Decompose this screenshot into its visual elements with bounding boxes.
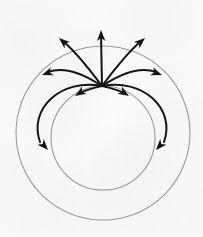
field-line-figure: [0, 0, 203, 237]
field-lines-group: [38, 30, 167, 153]
fieldline-left-medium-arrowhead: [41, 67, 54, 79]
fieldline-right-medium: [102, 67, 163, 86]
fieldline-right-long: [102, 35, 148, 86]
fieldline-left-long: [56, 35, 102, 86]
fieldline-left-medium: [41, 67, 102, 86]
fieldline-left-outer-loop: [38, 85, 102, 153]
inner-boundary-circle: [51, 86, 155, 190]
fieldline-vertical-up: [97, 30, 106, 86]
boundary-circles-group: [16, 46, 190, 220]
fieldline-right-long-stroke: [102, 42, 140, 86]
fieldline-left-medium-stroke: [48, 70, 102, 86]
outer-boundary-circle: [16, 46, 190, 220]
fieldline-left-outer-loop-stroke: [38, 85, 102, 142]
field-line-canvas: [0, 0, 203, 237]
fieldline-right-medium-stroke: [102, 70, 156, 86]
fieldline-left-short-arrowhead: [73, 87, 87, 100]
fieldline-right-outer-loop: [102, 85, 166, 153]
fieldline-vertical-up-stroke: [101, 34, 102, 86]
fieldline-right-outer-loop-stroke: [102, 85, 166, 142]
